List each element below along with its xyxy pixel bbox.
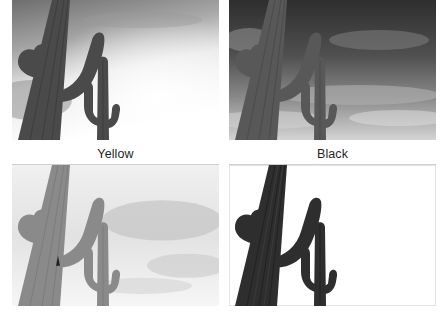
photo-panel-top-left: [12, 0, 219, 140]
caption-black: Black: [229, 147, 436, 161]
cactus-photo-stormy-sky: [229, 0, 436, 140]
cactus-photo-light-sky: [12, 0, 219, 140]
cactus-photo-black-channel: [229, 165, 436, 306]
photo-panel-black: [229, 165, 436, 306]
photo-panel-yellow: [12, 165, 219, 306]
cactus-photo-yellow-channel: [12, 165, 219, 306]
caption-yellow: Yellow: [12, 147, 219, 161]
photo-panel-top-right: [229, 0, 436, 140]
